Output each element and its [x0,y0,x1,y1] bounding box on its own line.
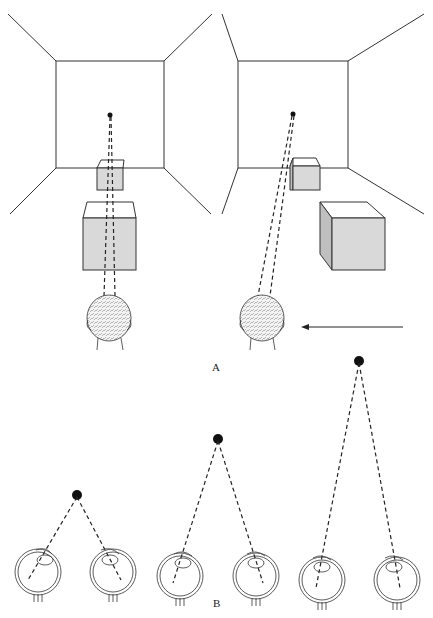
panel-a-label: A [212,361,220,373]
room-right [222,14,424,214]
eye-pair-near [28,490,121,580]
fixation-dot-left [108,113,113,118]
sightlines-right [258,116,294,296]
viewer-head-left [87,295,131,350]
large-cube-left [83,202,136,270]
panel-b-label: B [213,597,220,609]
fixation-dot-right [291,112,296,117]
figure-canvas [0,0,433,618]
eye-pair-far [316,356,400,588]
large-cube-right [320,202,385,270]
small-cube-right [290,158,320,190]
small-cube-left [97,160,124,190]
eye-pair-middle [173,434,263,583]
leftward-arrow [301,324,403,330]
viewer-head-right [240,295,284,350]
